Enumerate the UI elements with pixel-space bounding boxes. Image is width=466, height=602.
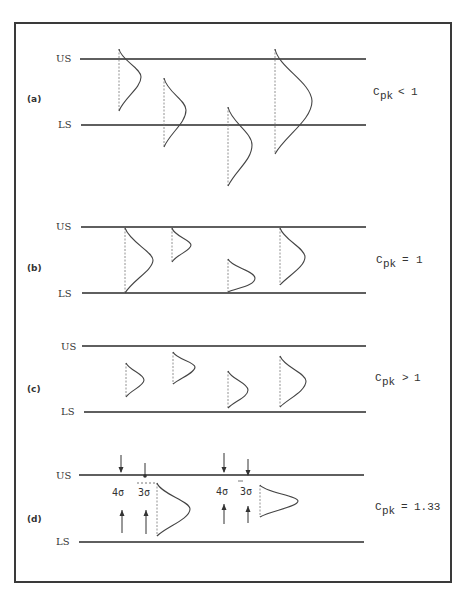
- cpk-annotation: C pk = 1: [376, 254, 423, 270]
- upper-spec-label: US: [56, 470, 71, 481]
- cpk-relation: <: [398, 86, 405, 98]
- panel-a: US LS (a) C pk < 1: [27, 49, 418, 186]
- distribution-curve: [157, 483, 190, 536]
- lower-spec-label: LS: [58, 119, 72, 130]
- cpk-value: 1: [411, 86, 418, 98]
- cpk-value: 1: [414, 372, 421, 384]
- cpk-subscript: pk: [382, 505, 396, 517]
- sigma-label-3: 3σ: [240, 486, 252, 497]
- panel-label: (b): [27, 263, 42, 273]
- distribution-curve: [228, 371, 248, 408]
- cpk-symbol: C: [375, 501, 382, 513]
- cpk-relation: =: [402, 254, 409, 266]
- sigma-label-4: 4σ: [216, 486, 228, 497]
- panel-c: US LS (c) C pk > 1: [27, 341, 421, 417]
- cpk-annotation: C pk = 1.33: [375, 501, 440, 517]
- panel-label: (c): [27, 384, 41, 394]
- sigma-label-3: 3σ: [138, 487, 150, 498]
- panel-label: (a): [27, 94, 41, 104]
- cpk-symbol: C: [373, 86, 380, 98]
- cpk-relation: =: [401, 501, 408, 513]
- down-arrow-icon: [143, 463, 147, 478]
- distribution-curve: [228, 259, 255, 292]
- upper-spec-label: US: [61, 341, 76, 352]
- cpk-symbol: C: [376, 254, 383, 266]
- distribution-curve: [228, 107, 252, 186]
- down-arrow-icon: [119, 455, 124, 473]
- cpk-subscript: pk: [382, 376, 396, 388]
- distribution-curve: [280, 356, 306, 407]
- upper-spec-label: US: [56, 221, 71, 232]
- cpk-value: 1: [416, 254, 423, 266]
- distribution-curve: [125, 228, 153, 293]
- panel-b: US LS (b) C pk = 1: [27, 221, 423, 299]
- distribution-curve: [275, 49, 312, 154]
- down-arrow-icon: [246, 459, 251, 476]
- distribution-curve: [173, 352, 195, 384]
- distribution-curve: [126, 363, 144, 397]
- sigma-margin-group-left: 4σ 3σ: [112, 455, 190, 536]
- cpk-subscript: pk: [383, 258, 397, 270]
- cpk-process-capability-figure: US LS (a) C pk < 1: [0, 0, 466, 602]
- panel-d: US LS (d) C pk = 1.33: [27, 453, 440, 547]
- cpk-relation: >: [402, 372, 409, 384]
- cpk-symbol: C: [375, 372, 382, 384]
- distribution-curve: [164, 78, 186, 147]
- distribution-curve: [172, 228, 191, 262]
- sigma-margin-group-right: 4σ 3σ: [216, 453, 298, 524]
- cpk-annotation: C pk > 1: [375, 372, 421, 388]
- down-arrow-icon: [222, 453, 227, 473]
- diagram-canvas: US LS (a) C pk < 1: [0, 0, 466, 602]
- lower-spec-label: LS: [61, 406, 75, 417]
- panel-label: (d): [27, 514, 42, 524]
- upper-spec-label: US: [56, 53, 71, 64]
- lower-spec-label: LS: [58, 288, 72, 299]
- up-arrow-icon: [144, 510, 149, 534]
- cpk-subscript: pk: [380, 90, 394, 102]
- cpk-annotation: C pk < 1: [373, 86, 418, 102]
- distribution-curve: [260, 485, 298, 517]
- distribution-curve: [280, 228, 305, 285]
- lower-spec-label: LS: [56, 536, 70, 547]
- up-arrow-icon: [222, 504, 227, 524]
- up-arrow-icon: [120, 510, 125, 533]
- sigma-label-4: 4σ: [112, 487, 124, 498]
- up-arrow-icon: [246, 506, 251, 523]
- cpk-value: 1.33: [414, 501, 440, 513]
